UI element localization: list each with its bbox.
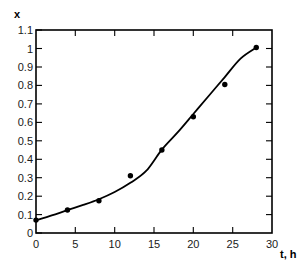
y-tick-label: 0.8	[18, 79, 33, 91]
y-tick-label: 0.3	[18, 172, 33, 184]
y-tick-label: 0.1	[18, 209, 33, 221]
y-tick-label: 0.5	[18, 135, 33, 147]
x-tick-label: 20	[187, 238, 199, 250]
x-axis-ticks-bottom	[75, 227, 232, 233]
y-tick-label: 1	[27, 43, 33, 55]
scatter-plot-svg: 1.1 1 0.9 0.8 0.7 0.6 0.5 0.4 0.3 0.2 0.…	[0, 0, 306, 272]
x-tick-label: 25	[227, 238, 239, 250]
y-tick-label: 0.4	[18, 153, 33, 165]
plot-frame	[36, 30, 272, 233]
data-point	[33, 217, 38, 222]
y-axis-ticks-left	[36, 30, 42, 233]
data-point	[191, 114, 196, 119]
y-tick-label: 0.6	[18, 116, 33, 128]
chart-figure: 1.1 1 0.9 0.8 0.7 0.6 0.5 0.4 0.3 0.2 0.…	[0, 0, 306, 272]
data-point	[222, 82, 227, 87]
y-tick-label: 0.7	[18, 98, 33, 110]
x-tick-label: 0	[33, 238, 39, 250]
y-tick-label: 0.2	[18, 190, 33, 202]
data-point	[96, 198, 101, 203]
y-axis-tick-labels: 1.1 1 0.9 0.8 0.7 0.6 0.5 0.4 0.3 0.2 0.…	[18, 24, 33, 239]
x-tick-label: 15	[148, 238, 160, 250]
data-point	[159, 147, 164, 152]
data-point	[65, 207, 70, 212]
y-axis-ticks-right	[266, 49, 272, 215]
y-tick-label: 0.9	[18, 61, 33, 73]
x-axis-title: t, h	[280, 248, 297, 260]
x-tick-label: 10	[109, 238, 121, 250]
data-point	[128, 173, 133, 178]
data-point-markers	[33, 45, 259, 223]
x-tick-label: 30	[266, 238, 278, 250]
x-axis-ticks-top	[75, 30, 232, 36]
y-axis-title: x	[14, 8, 21, 20]
data-point	[254, 45, 259, 50]
x-tick-label: 5	[72, 238, 78, 250]
x-axis-tick-labels: 0 5 10 15 20 25 30	[33, 238, 278, 250]
fitted-curve	[36, 48, 256, 221]
y-tick-label: 1.1	[18, 24, 33, 36]
